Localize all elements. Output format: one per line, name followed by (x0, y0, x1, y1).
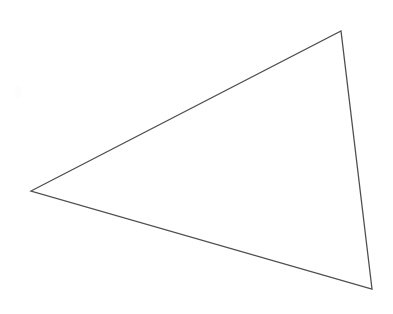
canvas-background (0, 0, 393, 314)
triangle-diagram (0, 0, 393, 314)
faint-background-artifact (15, 86, 21, 98)
figure-canvas (0, 0, 393, 314)
